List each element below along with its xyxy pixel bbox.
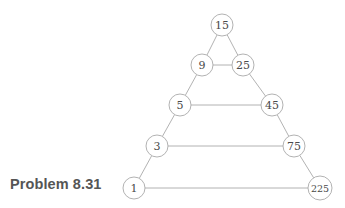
edges-layer: [139, 35, 313, 188]
graph-edge: [139, 156, 151, 179]
graph-edge: [185, 75, 196, 96]
graph-edge: [300, 155, 314, 177]
graph-node[interactable]: 15: [211, 14, 233, 36]
graph-edge: [249, 74, 265, 96]
node-label: 3: [154, 140, 161, 153]
graph-node[interactable]: 1: [123, 177, 145, 199]
node-label: 1: [131, 182, 138, 195]
graph-node[interactable]: 75: [283, 135, 305, 157]
node-label: 9: [199, 59, 206, 72]
graph-node[interactable]: 25: [232, 54, 254, 76]
graph-node[interactable]: 5: [169, 94, 191, 116]
graph-node[interactable]: 9: [191, 54, 213, 76]
node-label: 75: [287, 140, 301, 153]
node-label: 45: [265, 99, 279, 112]
node-label: 5: [177, 99, 184, 112]
graph-edge: [277, 115, 289, 137]
graph-node[interactable]: 3: [146, 135, 168, 157]
node-label: 225: [311, 183, 329, 194]
node-label: 25: [236, 59, 250, 72]
node-label: 15: [215, 19, 229, 32]
figure-caption: Problem 8.31: [10, 176, 101, 192]
nodes-layer: 159255453751225: [123, 14, 332, 200]
graph-edge: [207, 35, 217, 55]
graph-edge: [162, 115, 174, 137]
figure-canvas: 159255453751225 Problem 8.31: [0, 0, 345, 208]
graph-node[interactable]: 225: [308, 176, 332, 200]
graph-edge: [227, 35, 238, 56]
graph-node[interactable]: 45: [261, 94, 283, 116]
